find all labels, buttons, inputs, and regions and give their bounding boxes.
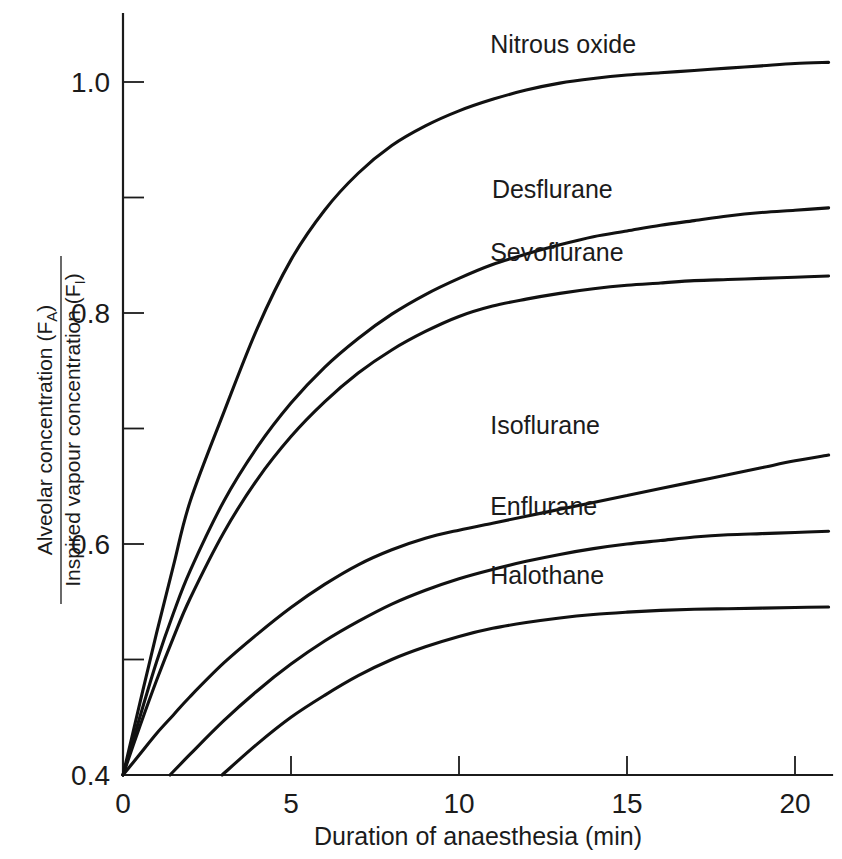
series-label-enflurane: Enflurane	[490, 492, 597, 520]
x-tick-label: 0	[115, 788, 131, 819]
fa-fi-uptake-chart: Alveolar concentration (FA) Inspired vap…	[0, 0, 842, 859]
series-curves	[123, 62, 829, 775]
x-tick-label: 20	[779, 788, 810, 819]
curve-nitrous-oxide	[123, 62, 829, 775]
curve-desflurane	[123, 208, 829, 775]
series-label-isoflurane: Isoflurane	[490, 411, 600, 439]
curve-isoflurane	[123, 455, 829, 775]
x-tick-label: 5	[283, 788, 299, 819]
series-label-sevoflurane: Sevoflurane	[490, 238, 623, 266]
y-tick-label: 0.4	[71, 760, 110, 791]
series-label-desflurane: Desflurane	[492, 175, 613, 203]
series-labels: Nitrous oxideDesfluraneSevofluraneIsoflu…	[490, 30, 636, 589]
x-axis-ticks: 05101520	[115, 756, 810, 819]
curve-halothane	[222, 607, 828, 775]
y-tick-label: 0.6	[71, 529, 110, 560]
x-tick-label: 15	[611, 788, 642, 819]
series-label-halothane: Halothane	[490, 561, 604, 589]
series-label-nitrous-oxide: Nitrous oxide	[490, 30, 636, 58]
x-tick-label: 10	[443, 788, 474, 819]
y-axis-numerator: Alveolar concentration (FA)	[33, 305, 60, 555]
x-axis-title: Duration of anaesthesia (min)	[314, 822, 642, 850]
y-tick-label: 0.8	[71, 298, 110, 329]
chart-container: Alveolar concentration (FA) Inspired vap…	[0, 0, 842, 859]
y-tick-label: 1.0	[71, 67, 110, 98]
